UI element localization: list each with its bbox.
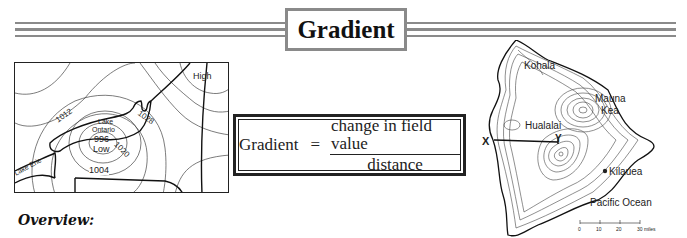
isobar-lines <box>15 63 229 193</box>
scale-tick-10: 10 <box>596 226 602 232</box>
hawaii-topographic-map: Kohala Mauna Kea Hualalai X Y Kilauea Pa… <box>488 40 683 238</box>
label-isobar-996: 996 <box>94 134 109 144</box>
label-lake-ontario-1: Lake <box>98 118 113 125</box>
overview-heading: Overview: <box>18 212 94 228</box>
formula-fraction: change in field value distance <box>330 117 460 174</box>
gradient-formula: Gradient = change in field value distanc… <box>238 119 461 171</box>
scale-bar <box>580 220 640 224</box>
label-mauna-kea-1: Mauna <box>595 93 626 104</box>
formula-equals: = <box>310 135 320 155</box>
label-pacific-ocean: Pacific Ocean <box>590 197 652 208</box>
formula-denominator: distance <box>367 155 423 174</box>
scale-tick-0: 0 <box>578 226 581 232</box>
formula-lhs: Gradient <box>239 135 298 155</box>
label-kohala: Kohala <box>524 60 555 71</box>
weather-isobar-map: High 1028 1020 1012 Lake Ontario 996 Low… <box>14 62 229 193</box>
page-title: Gradient <box>297 16 394 44</box>
label-kilauea: Kilauea <box>609 166 642 177</box>
scale-tick-20: 20 <box>616 226 622 232</box>
label-hualalai: Hualalai <box>525 120 561 131</box>
label-low: Low <box>93 144 110 154</box>
page-title-box: Gradient <box>285 8 407 51</box>
label-point-y: Y <box>555 133 562 144</box>
gradient-formula-box: Gradient = change in field value distanc… <box>233 114 466 176</box>
label-mauna-kea-2: Kea <box>601 105 619 116</box>
topo-contour-lines <box>488 40 683 238</box>
scale-tick-30: 30 miles <box>637 226 656 232</box>
label-isobar-1004: 1004 <box>89 165 109 175</box>
formula-numerator: change in field value <box>330 117 460 155</box>
label-high: High <box>193 71 212 81</box>
label-lake-ontario-2: Ontario <box>92 126 115 133</box>
label-point-x: X <box>482 135 489 147</box>
